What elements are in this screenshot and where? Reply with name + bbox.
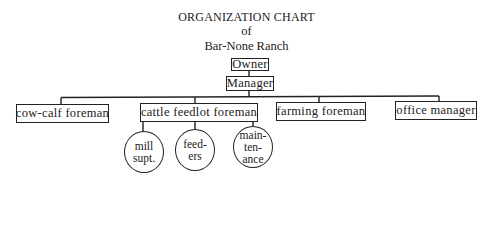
node-manager: Manager [226, 76, 274, 91]
node-office-manager: office manager [395, 101, 477, 120]
feeders-line-2: ers [188, 150, 201, 162]
node-cattle-feedlot-foreman: cattle feedlot foreman [140, 103, 258, 122]
node-mill-supt: mill supt. [124, 131, 164, 173]
maintenance-line-3: ance [242, 153, 263, 165]
mill-line-2: supt. [133, 152, 155, 164]
feeders-line-1: feed- [183, 138, 207, 150]
maintenance-line-1: main- [240, 129, 267, 141]
node-maintenance: main- ten- ance [233, 126, 273, 168]
maintenance-line-2: ten- [244, 141, 262, 153]
node-feeders: feed- ers [175, 129, 215, 171]
node-cow-calf-foreman: cow-calf foreman [16, 104, 109, 123]
node-farming-foreman: farming foreman [276, 102, 366, 121]
mill-line-1: mill [135, 140, 154, 152]
node-owner: Owner [231, 58, 269, 71]
